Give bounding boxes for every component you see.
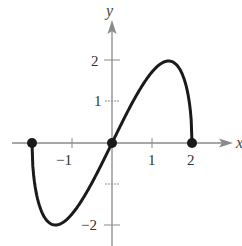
y-tick-label-2: 2 — [91, 53, 99, 69]
point-marker — [187, 138, 197, 148]
x-tick-label-2: 2 — [187, 152, 195, 168]
point-marker — [27, 138, 37, 148]
function-graph: −1 1 2 2 1 −2 y x — [0, 0, 242, 246]
x-tick-label-neg1: −1 — [56, 152, 72, 168]
x-tick-label-1: 1 — [148, 152, 156, 168]
x-axis-label: x — [235, 134, 242, 151]
y-tick-label-neg2: −2 — [81, 217, 97, 233]
y-axis-label: y — [104, 2, 114, 20]
y-tick-label-1: 1 — [94, 93, 102, 109]
point-marker — [107, 138, 117, 148]
